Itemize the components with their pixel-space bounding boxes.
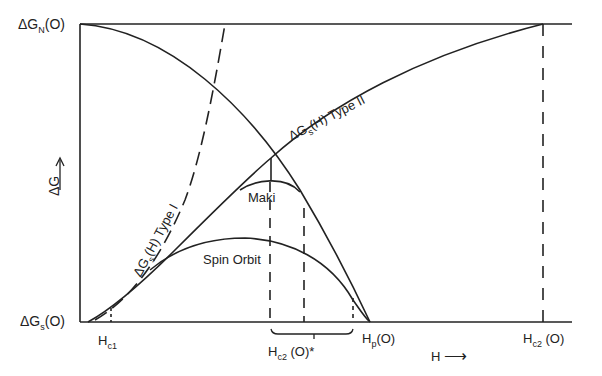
x-axis-label: H ⟶	[431, 346, 467, 365]
type-ii-curve	[88, 24, 543, 322]
maki-label: Maki	[248, 190, 275, 205]
type-i-curve	[95, 24, 225, 320]
hc2-star-bracket	[271, 329, 353, 334]
normal-state-curve	[80, 24, 370, 322]
hc1-label: Hc1	[98, 333, 117, 348]
diagram-canvas	[0, 0, 602, 376]
y-axis-label: ΔG	[46, 176, 62, 196]
hp-label: Hp(O)	[362, 331, 395, 346]
spin-orbit-label: Spin Orbit	[203, 252, 261, 267]
hc2-star-label: Hc2 (O)*	[268, 344, 314, 359]
hc2-label: Hc2 (O)	[523, 331, 564, 346]
delta-gn-label: ΔGN(O)	[18, 16, 65, 32]
spin-orbit-curve	[150, 238, 370, 322]
delta-gs-label: ΔGs(O)	[20, 313, 65, 329]
